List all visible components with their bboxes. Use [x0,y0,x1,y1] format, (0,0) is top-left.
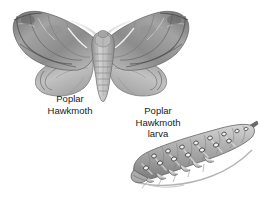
forewing-right [107,11,189,70]
moth-caption-line-1: Poplar [14,93,126,105]
larva-caption: Poplar Hawkmoth larva [112,105,204,140]
moth-caption-line-2: Hawkmoth [14,105,126,117]
forewing-left [13,11,95,70]
moth-caption: Poplar Hawkmoth [14,93,126,116]
larva-caption-line-2: Hawkmoth [112,117,204,129]
larva-caption-line-3: larva [112,128,204,140]
poplar-hawkmoth-illustration [8,4,198,102]
moth-head [98,30,108,37]
illustration-page: Poplar Hawkmoth Poplar Hawkmoth larva [0,0,260,199]
larva-caption-line-1: Poplar [112,105,204,117]
moth-body [92,30,115,101]
